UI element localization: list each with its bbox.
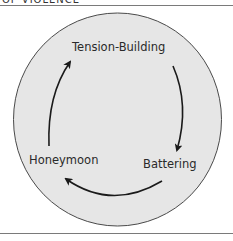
stage-tension-building: Tension-Building xyxy=(72,42,165,54)
cycle-diagram xyxy=(0,0,233,241)
stage-battering: Battering xyxy=(143,159,197,171)
stage-honeymoon: Honeymoon xyxy=(29,155,98,167)
